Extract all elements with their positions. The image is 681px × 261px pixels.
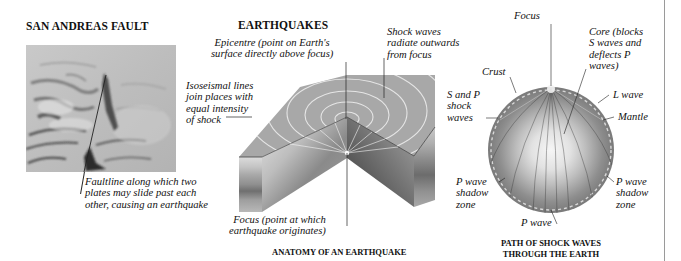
san-andreas-title: SAN ANDREAS FAULT bbox=[26, 20, 148, 32]
mantle-label: Mantle bbox=[618, 111, 648, 122]
focus-label: Focus (point at which earthquake origina… bbox=[229, 214, 326, 237]
anatomy-caption: ANATOMY OF AN EARTHQUAKE bbox=[272, 247, 407, 258]
earth-focus-label: Focus bbox=[514, 10, 540, 21]
faultline-label: Faultline along which two plates may sli… bbox=[85, 176, 208, 210]
fault-photo-illustration bbox=[26, 45, 176, 172]
earthquakes-title: EARTHQUAKES bbox=[238, 19, 328, 31]
epicentre-label: Epicentre (point on Earth's surface dire… bbox=[211, 37, 333, 60]
path-caption: PATH OF SHOCK WAVES THROUGH THE EARTH bbox=[490, 238, 612, 260]
path-caption-line2: THROUGH THE EARTH bbox=[490, 249, 612, 260]
p-wave-shadow-left-label: P wave shadow zone bbox=[456, 176, 488, 210]
core-label: Core (blocks S waves and deflects P wave… bbox=[589, 26, 643, 72]
shock-waves-label: Shock waves radiate outwards from focus bbox=[387, 26, 459, 60]
crust-label: Crust bbox=[482, 66, 506, 77]
p-wave-shadow-right-label: P wave shadow zone bbox=[616, 176, 648, 210]
p-wave-label: P wave bbox=[521, 217, 552, 228]
l-wave-label: L wave bbox=[613, 89, 643, 100]
path-caption-line1: PATH OF SHOCK WAVES bbox=[490, 238, 612, 249]
s-and-p-waves-label: S and P shock waves bbox=[447, 89, 480, 123]
fault-aerial-photo bbox=[26, 45, 176, 172]
page-edge-rule bbox=[664, 0, 665, 261]
isoseismal-label: Isoseismal lines join places with equal … bbox=[186, 80, 253, 126]
